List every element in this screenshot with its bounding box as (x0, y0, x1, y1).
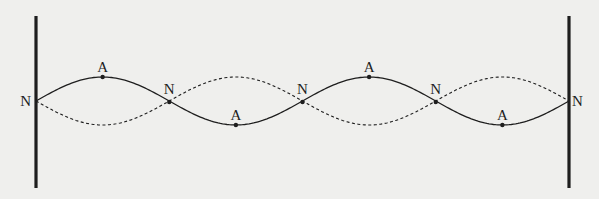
antinode-label: A (364, 59, 375, 75)
antinode-point (500, 123, 504, 127)
node-point (434, 100, 438, 104)
node-label: N (572, 93, 583, 109)
node-label: N (430, 81, 441, 97)
diagram-canvas: NNNNNAAAA (0, 0, 599, 199)
node-point (300, 100, 304, 104)
antinode-point (234, 123, 238, 127)
antinode-label: A (497, 107, 508, 123)
antinode-point (100, 75, 104, 79)
node-label: N (297, 81, 308, 97)
node-label: N (20, 93, 31, 109)
node-point (167, 100, 171, 104)
antinode-label: A (230, 107, 241, 123)
node-label: N (164, 81, 175, 97)
antinode-label: A (97, 59, 108, 75)
standing-wave-diagram: NNNNNAAAA (0, 0, 599, 199)
antinode-point (367, 75, 371, 79)
